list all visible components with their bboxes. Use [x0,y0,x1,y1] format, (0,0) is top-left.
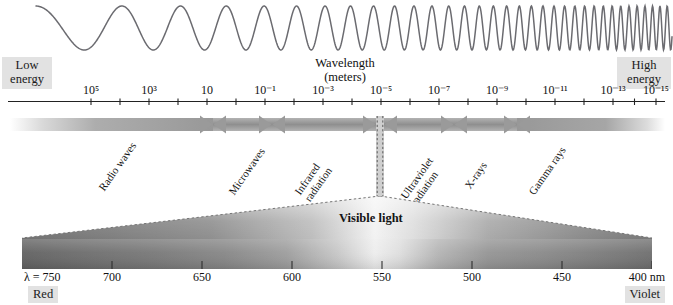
wavelength-caption-line2: (meters) [286,71,404,85]
axis-tick-label-4: 10⁻³ [312,83,334,98]
axis-tick-label-2: 10 [201,83,213,98]
nm-label-700: 700 [103,270,121,285]
wave-path [36,6,672,50]
band-segments [10,118,665,131]
axis-tick-label-3: 10⁻¹ [254,83,276,98]
wavelength-caption-line1: Wavelength [286,57,404,71]
fan-highlight [22,196,652,242]
nm-label-600: 600 [283,270,301,285]
low-energy-line1: Low [6,59,48,73]
nm-label-450: 450 [553,270,571,285]
axis-tick-label-7: 10⁻⁹ [486,83,508,98]
wavelength-nm-scale: λ = 750700650600550500450400 nm Red Viol… [0,269,673,305]
visible-spectrum-svg [22,239,652,269]
band-segment-gamma-rays [517,118,665,131]
axis-tick-label-0: 10⁵ [83,83,99,98]
axis-tick-label-9: 10⁻¹³ [600,83,625,98]
red-color-tag: Red [28,286,58,303]
nm-label-550: 550 [373,270,391,285]
band-segment-infrared-radiation [272,118,376,131]
axis-tick-label-5: 10⁻⁵ [370,83,392,98]
wave-svg [0,0,673,56]
wavelength-axis: 10⁵10³1010⁻¹10⁻³10⁻⁵10⁻⁷10⁻⁹10⁻¹¹10⁻¹³10… [0,84,673,110]
axis-ticks-svg [0,98,673,110]
spectrum-shading [22,239,652,269]
axis-tick-label-6: 10⁻⁷ [428,83,450,98]
wave-illustration [0,0,673,56]
em-spectrum-figure: Low energy High energy Wavelength (meter… [0,0,673,305]
nm-label-500: 500 [463,270,481,285]
axis-tick-label-8: 10⁻¹¹ [542,83,567,98]
nm-label-first: λ = 750 [24,270,61,285]
em-band-strip: Radio wavesMicrowavesInfraredradiationUl… [0,114,673,198]
violet-color-tag: Violet [625,286,666,303]
band-segment-radio-waves [10,118,213,131]
wavelength-axis-caption: Wavelength (meters) [286,57,404,84]
high-energy-line1: High [621,59,667,73]
axis-tick-label-10: 10⁻¹⁵ [643,83,669,98]
nm-label-last: 400 nm [629,270,665,285]
visible-light-label: Visible light [339,211,403,226]
axis-tick-label-1: 10³ [141,83,157,98]
nm-label-650: 650 [193,270,211,285]
axis-tick-labels: 10⁵10³1010⁻¹10⁻³10⁻⁵10⁻⁷10⁻⁹10⁻¹¹10⁻¹³10… [0,84,673,99]
visible-spectrum-bar [22,239,652,269]
